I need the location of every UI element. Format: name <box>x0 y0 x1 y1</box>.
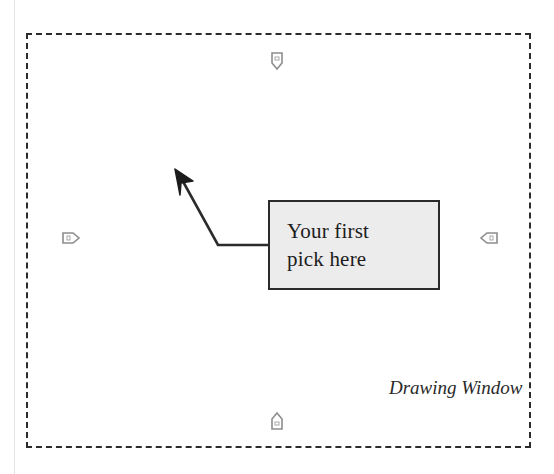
grip-bottom-icon[interactable] <box>266 410 288 432</box>
drawing-canvas: Your first pick here Drawing Window <box>0 0 554 474</box>
callout-text-line-2: pick here <box>287 245 438 273</box>
callout-box[interactable]: Your first pick here <box>268 200 440 290</box>
grip-right-icon[interactable] <box>478 227 500 249</box>
page-edge-rule <box>14 0 15 474</box>
grip-left-icon[interactable] <box>60 227 82 249</box>
callout-text-line-1: Your first <box>287 217 438 245</box>
grip-top-icon[interactable] <box>266 50 288 72</box>
drawing-window-label: Drawing Window <box>389 377 523 399</box>
